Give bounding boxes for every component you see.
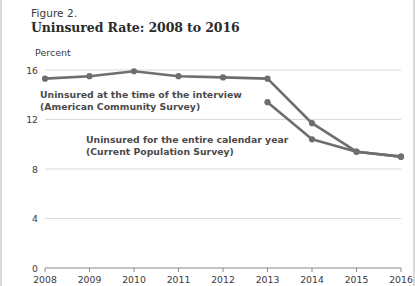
data-point-marker xyxy=(264,99,270,105)
data-point-marker xyxy=(309,136,315,142)
y-tick-label: 12 xyxy=(26,114,38,125)
y-tick-labels-group: 0481216 xyxy=(26,65,38,274)
x-tick-label: 2009 xyxy=(78,274,102,285)
x-tick-label: 2016 xyxy=(389,274,413,285)
data-point-marker xyxy=(220,74,226,80)
data-point-marker xyxy=(264,76,270,82)
y-tick-label: 8 xyxy=(32,164,38,175)
y-tick-label: 0 xyxy=(32,263,38,274)
series-annotation-cps-line1: Uninsured for the entire calendar year xyxy=(86,134,288,146)
y-tick-label: 16 xyxy=(26,65,38,76)
x-tick-marks-group xyxy=(45,268,401,272)
x-tick-label: 2014 xyxy=(300,274,324,285)
data-point-marker xyxy=(42,76,48,82)
x-tick-label: 2011 xyxy=(167,274,191,285)
data-point-marker xyxy=(353,149,359,155)
data-point-marker xyxy=(398,154,404,160)
x-tick-label: 2012 xyxy=(211,274,235,285)
series-annotation-acs: Uninsured at the time of the interview (… xyxy=(40,89,242,112)
series-annotation-acs-line1: Uninsured at the time of the interview xyxy=(40,89,242,101)
figure-container: Figure 2. Uninsured Rate: 2008 to 2016 P… xyxy=(0,0,415,286)
x-tick-label: 2008 xyxy=(33,274,57,285)
x-tick-label: 2015 xyxy=(345,274,369,285)
data-point-marker xyxy=(86,73,92,79)
series-annotation-cps-line2: (Current Population Survey) xyxy=(86,146,288,158)
data-point-marker xyxy=(131,68,137,74)
x-tick-label: 2010 xyxy=(122,274,146,285)
y-tick-label: 4 xyxy=(32,213,38,224)
x-tick-labels-group: 200820092010201120122013201420152016 xyxy=(33,274,413,285)
data-point-marker xyxy=(309,120,315,126)
data-point-marker xyxy=(175,73,181,79)
series-annotation-acs-line2: (American Community Survey) xyxy=(40,101,242,113)
x-tick-label: 2013 xyxy=(256,274,280,285)
series-annotation-cps: Uninsured for the entire calendar year (… xyxy=(86,134,288,157)
